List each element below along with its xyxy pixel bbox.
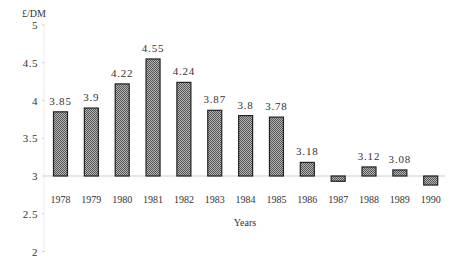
data-label-1984: 3.8	[238, 99, 254, 111]
data-label-1981: 4.55	[142, 42, 164, 54]
x-tick-label: 1980	[112, 194, 132, 205]
bar-1989	[393, 170, 407, 176]
y-tick-label: 3	[32, 170, 38, 182]
x-tick-label: 1987	[328, 194, 348, 205]
bar-1980	[115, 84, 129, 176]
data-label-1988: 3.12	[358, 150, 380, 162]
data-label-1979: 3.9	[83, 91, 99, 103]
data-label-1983: 3.87	[204, 93, 226, 105]
bar-1986	[300, 162, 314, 176]
bar-1987	[331, 176, 345, 181]
x-tick-label: 1990	[421, 194, 441, 205]
data-label-1982: 4.24	[173, 65, 195, 77]
data-label-1989: 3.08	[389, 153, 411, 165]
x-tick-label: 1978	[51, 194, 71, 205]
bar-1984	[239, 116, 253, 176]
x-tick-label: 1985	[266, 194, 286, 205]
x-tick-label: 1982	[174, 194, 194, 205]
data-label-1985: 3.78	[265, 100, 287, 112]
bar-1983	[208, 110, 222, 176]
bars: 3.853.94.224.554.243.873.83.783.183.123.…	[49, 42, 437, 185]
bar-1978	[54, 112, 68, 176]
x-tick-label: 1988	[359, 194, 379, 205]
bar-1985	[269, 117, 283, 176]
y-tick-label: 3.5	[23, 132, 38, 144]
bar-1982	[177, 82, 191, 176]
x-tick-label: 1986	[297, 194, 317, 205]
bar-1979	[84, 108, 98, 176]
data-label-1980: 4.22	[111, 67, 133, 79]
data-label-1978: 3.85	[49, 95, 71, 107]
x-tick-label: 1984	[236, 194, 256, 205]
y-tick-label: 2	[32, 246, 38, 258]
data-label-1986: 3.18	[296, 145, 318, 157]
bar-1990	[424, 176, 438, 185]
bar-1988	[362, 167, 376, 176]
x-axis-title: Years	[234, 217, 256, 228]
bar-1981	[146, 59, 160, 176]
x-tick-label: 1989	[390, 194, 410, 205]
y-tick-label: 4	[32, 95, 38, 107]
y-axis: 22.533.544.55	[23, 19, 45, 258]
x-axis-labels: 1978197919801981198219831984198519861987…	[51, 194, 441, 205]
x-tick-label: 1983	[205, 194, 225, 205]
y-tick-label: 4.5	[23, 57, 38, 69]
y-axis-title: £/DM	[22, 8, 46, 19]
y-tick-label: 2.5	[23, 208, 38, 220]
bar-chart: £/DM 22.533.544.55 3.853.94.224.554.243.…	[0, 0, 465, 264]
y-tick-label: 5	[32, 19, 38, 31]
x-tick-label: 1981	[143, 194, 163, 205]
x-tick-label: 1979	[81, 194, 101, 205]
